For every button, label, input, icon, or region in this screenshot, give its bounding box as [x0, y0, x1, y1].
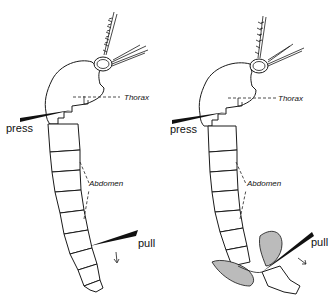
- mouthparts: [112, 45, 148, 66]
- press-label: press: [170, 123, 197, 135]
- left-panel: Thorax Abdomen press pull: [6, 12, 155, 292]
- pull-label: pull: [311, 236, 328, 248]
- dissection-diagram: Thorax Abdomen press pull: [0, 0, 335, 299]
- right-panel: Thorax Abdomen press pull: [170, 16, 328, 294]
- press-label: press: [6, 122, 33, 134]
- abdomen-label: Abdomen: [246, 179, 282, 188]
- abdomen-label: Abdomen: [88, 179, 124, 188]
- abdomen: [48, 124, 103, 292]
- thorax: [199, 63, 256, 126]
- antenna: [103, 12, 117, 55]
- antenna: [255, 16, 266, 58]
- pull-label: pull: [138, 237, 155, 249]
- thorax-label: Thorax: [278, 94, 304, 103]
- mouthparts: [268, 44, 304, 66]
- thorax: [45, 61, 104, 124]
- thorax-label: Thorax: [124, 93, 150, 102]
- pull-needle: [90, 230, 138, 246]
